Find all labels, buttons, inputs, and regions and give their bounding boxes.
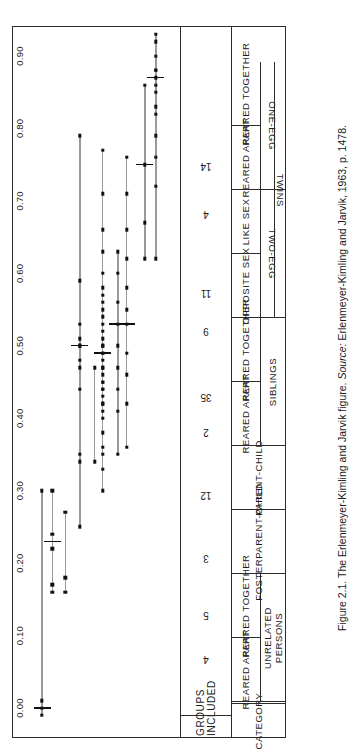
category-group-label: PARENT-CHILD [253, 440, 264, 516]
data-point [116, 301, 119, 304]
data-point [101, 489, 104, 492]
category-group-cell: SIBLINGS [260, 318, 286, 446]
data-point [125, 446, 128, 449]
median-marker [136, 164, 153, 165]
median-marker [71, 345, 88, 346]
median-marker [147, 77, 164, 78]
data-point [78, 134, 81, 137]
plot-body [34, 26, 180, 738]
data-point [154, 54, 157, 57]
groups-included-value: 35 [200, 391, 211, 402]
data-point [101, 431, 104, 434]
groups-header-divider [181, 715, 231, 716]
x-tick-label: 0.40 [14, 409, 25, 428]
data-point [125, 402, 128, 405]
data-point [143, 221, 146, 224]
data-point [116, 344, 119, 347]
caption-source-text: Erlenmeyer-Kimling and Jarvik, 1963, p. … [336, 125, 348, 343]
category-twins-cell: TWINS [274, 62, 286, 318]
category-row-label: REARED TOGETHER [240, 43, 251, 146]
category-row-cell: OPPOSITE SEX [232, 254, 260, 318]
category-row-label: OPPOSITE SEX [240, 248, 251, 325]
data-point [116, 272, 119, 275]
x-tick-label: 0.70 [14, 191, 25, 210]
groups-included-value: 9 [203, 325, 209, 336]
caption-prefix: Figure 2.1. The Erlenmeyer-Kimling and J… [336, 380, 348, 631]
groups-included-value: 11 [201, 287, 211, 298]
data-point [101, 148, 104, 151]
groups-included-header: GROUPS INCLUDED [195, 710, 217, 736]
data-point [40, 699, 43, 702]
data-point [125, 351, 128, 354]
groups-included-value: 4 [203, 208, 209, 219]
figure-caption: Figure 2.1. The Erlenmeyer-Kimling and J… [331, 0, 353, 756]
category-group-cell: FOSTERPARENT-CHILD [232, 510, 286, 574]
data-point [51, 547, 54, 550]
data-point [101, 467, 104, 470]
data-point [101, 359, 104, 362]
range-line [94, 368, 95, 462]
data-point [101, 192, 104, 195]
groups-included-value: 14 [200, 161, 211, 172]
data-point [93, 366, 96, 369]
median-marker [34, 707, 51, 708]
data-point [101, 402, 104, 405]
groups-included-value: 4 [203, 654, 209, 665]
data-point [40, 714, 43, 717]
data-point [143, 257, 146, 260]
data-point [125, 286, 128, 289]
data-point [101, 453, 104, 456]
data-point [101, 308, 104, 311]
category-row-divider [232, 317, 260, 318]
data-point [78, 525, 81, 528]
data-point [78, 279, 81, 282]
category-row-divider [232, 701, 260, 702]
data-point [116, 453, 119, 456]
data-point [125, 192, 128, 195]
median-marker [118, 323, 135, 324]
category-strip-divider [260, 318, 261, 446]
data-point [101, 337, 104, 340]
data-point [51, 590, 54, 593]
figure-body: 0.000.100.200.300.400.500.600.700.800.90… [12, 26, 286, 738]
data-point [101, 330, 104, 333]
category-row-cell: REARED TOGETHER [232, 62, 260, 126]
data-point [101, 272, 104, 275]
category-band: CATEGORYUNRELATED PERSONSREARED APARTREA… [232, 26, 286, 738]
data-point [143, 83, 146, 86]
median-marker [94, 352, 111, 353]
data-point [154, 33, 157, 36]
data-point [101, 322, 104, 325]
data-point [78, 388, 81, 391]
data-point [101, 315, 104, 318]
data-point [101, 366, 104, 369]
data-point [51, 532, 54, 535]
data-point [101, 344, 104, 347]
data-point [154, 83, 157, 86]
category-group-label: UNRELATED PERSONS [262, 607, 284, 669]
data-point [64, 511, 67, 514]
data-point [116, 366, 119, 369]
data-point [101, 301, 104, 304]
rotated-figure-wrapper: 0.000.100.200.300.400.500.600.700.800.90… [0, 0, 300, 756]
data-point [78, 337, 81, 340]
groups-included-value: 5 [203, 610, 209, 621]
range-line [65, 512, 66, 592]
data-point [154, 40, 157, 43]
median-marker [44, 541, 61, 542]
data-point [101, 228, 104, 231]
category-row-divider [232, 381, 260, 382]
data-point [125, 228, 128, 231]
category-row-label: LIKE SEX [240, 199, 251, 246]
data-point [116, 409, 119, 412]
data-point [101, 380, 104, 383]
data-point [154, 69, 157, 72]
data-point [116, 250, 119, 253]
x-tick-label: 0.00 [14, 698, 25, 717]
data-point [154, 185, 157, 188]
category-row-cell: LIKE SEX [232, 190, 260, 254]
category-group-label: SIBLINGS [267, 358, 278, 406]
data-point [101, 293, 104, 296]
data-point [125, 257, 128, 260]
x-tick-label: 0.60 [14, 264, 25, 283]
